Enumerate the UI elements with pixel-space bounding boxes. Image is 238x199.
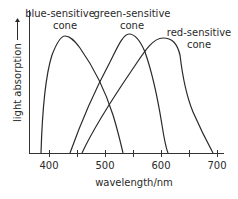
red-cone-label-line2: cone (187, 39, 211, 50)
blue-cone-label-line1: blue-sensitive (25, 8, 95, 19)
x-tick-label-600: 600 (151, 160, 170, 171)
y-axis-label: light absorption (12, 43, 23, 122)
green-cone-label-line1: green-sensitive (94, 8, 171, 19)
cone-absorption-chart: 400 500 600 700 wavelength/nm light abso… (0, 0, 238, 199)
red-cone-curve (82, 38, 213, 153)
red-cone-label-line1: red-sensitive (167, 27, 231, 38)
green-cone-label-line2: cone (120, 20, 144, 31)
x-tick-label-700: 700 (207, 160, 226, 171)
x-tick-label-500: 500 (95, 160, 114, 171)
blue-cone-label-line2: cone (53, 20, 77, 31)
y-axis-label-group: light absorption (12, 18, 23, 122)
x-tick-label-400: 400 (39, 160, 58, 171)
blue-cone-curve (41, 36, 123, 153)
y-axis-arrowhead-icon (15, 18, 20, 22)
x-axis-label: wavelength/nm (95, 177, 173, 188)
